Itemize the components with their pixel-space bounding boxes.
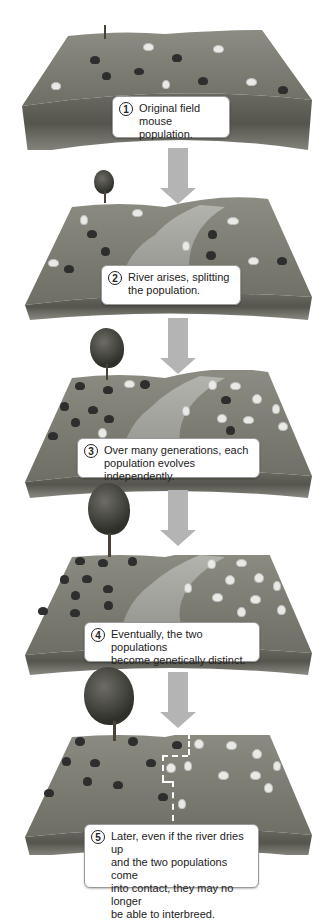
tree-trunk — [113, 721, 116, 741]
light-mouse-icon — [243, 416, 254, 424]
tree-icon — [84, 667, 134, 725]
dark-mouse-icon — [226, 426, 235, 435]
dark-mouse-icon — [70, 609, 80, 617]
step-1-panel: 1 Original field mouse population. — [0, 0, 333, 150]
light-mouse-icon — [230, 382, 241, 390]
interbreeding-barrier-line — [162, 781, 172, 783]
step-number-badge: 2 — [108, 271, 122, 285]
light-mouse-icon — [80, 215, 88, 225]
dark-mouse-icon — [48, 432, 58, 440]
light-mouse-icon — [273, 581, 281, 591]
light-mouse-icon — [237, 607, 246, 617]
dark-mouse-icon — [221, 396, 231, 404]
dark-mouse-icon — [75, 557, 85, 565]
dark-mouse-icon — [208, 230, 217, 239]
light-mouse-icon — [217, 414, 227, 423]
label-line: Over many generations, each — [104, 444, 252, 457]
interbreeding-barrier-line — [162, 755, 188, 757]
label-line: become genetically distinct. — [111, 654, 252, 667]
light-mouse-icon — [226, 741, 237, 750]
dark-mouse-icon — [44, 789, 54, 797]
step-5-label: 5 Later, even if the river dries up and … — [84, 824, 259, 888]
light-mouse-icon — [254, 573, 264, 583]
light-mouse-icon — [250, 771, 261, 780]
light-mouse-icon — [182, 406, 190, 416]
light-mouse-icon — [250, 595, 261, 604]
dark-mouse-icon — [104, 415, 114, 423]
tree-icon — [88, 483, 130, 535]
label-line: and the two populations come — [111, 856, 251, 882]
label-line: Original field — [139, 102, 222, 115]
dark-mouse-icon — [102, 72, 111, 80]
dark-mouse-icon — [103, 386, 113, 394]
light-mouse-icon — [252, 749, 262, 759]
dark-mouse-icon — [113, 781, 123, 789]
light-mouse-icon — [277, 605, 286, 615]
step-5-panel: 5 Later, even if the river dries up and … — [0, 735, 333, 893]
light-mouse-icon — [278, 422, 288, 431]
light-mouse-icon — [51, 82, 61, 90]
light-mouse-icon — [182, 241, 190, 251]
label-line: Later, even if the river dries up — [111, 830, 251, 856]
light-mouse-icon — [252, 394, 262, 404]
tree-trunk — [106, 364, 108, 380]
light-mouse-icon — [264, 783, 273, 793]
tree-trunk — [108, 533, 111, 557]
light-mouse-icon — [124, 380, 135, 388]
label-line: Eventually, the two populations — [111, 628, 252, 654]
light-mouse-icon — [272, 404, 280, 414]
step-3-panel: 3 Over many generations, each population… — [0, 370, 333, 498]
dark-mouse-icon — [82, 575, 92, 583]
light-mouse-icon — [273, 761, 281, 771]
label-line: the population. — [128, 284, 233, 297]
dark-mouse-icon — [75, 737, 85, 746]
dark-mouse-icon — [172, 54, 182, 62]
label-line: mouse population. — [139, 115, 222, 141]
dark-mouse-icon — [60, 575, 69, 584]
dark-mouse-icon — [104, 601, 113, 610]
label-line: population evolves independently. — [104, 457, 252, 483]
light-mouse-icon — [132, 209, 143, 217]
light-mouse-icon — [225, 575, 235, 585]
tree-icon — [90, 328, 124, 368]
dark-mouse-icon — [62, 757, 71, 766]
label-line: into contact, they may no longer — [111, 882, 251, 908]
dark-mouse-icon — [71, 591, 80, 600]
label-line: be able to interbreed. — [111, 908, 251, 921]
dark-mouse-icon — [60, 402, 69, 411]
light-mouse-icon — [213, 45, 224, 53]
light-mouse-icon — [246, 78, 257, 86]
down-arrow-icon — [160, 490, 196, 546]
light-mouse-icon — [218, 771, 229, 780]
dark-mouse-icon — [98, 559, 108, 567]
dark-mouse-icon — [38, 607, 48, 615]
step-number-badge: 1 — [119, 102, 133, 116]
interbreeding-barrier-line — [172, 781, 174, 821]
light-mouse-icon — [48, 259, 59, 267]
dark-mouse-icon — [71, 418, 80, 427]
light-mouse-icon — [194, 739, 204, 749]
light-mouse-icon — [98, 428, 107, 438]
light-mouse-icon — [184, 761, 192, 771]
dark-mouse-icon — [206, 251, 216, 260]
light-mouse-icon — [143, 43, 154, 51]
dark-mouse-icon — [64, 265, 74, 273]
dark-mouse-icon — [83, 777, 92, 786]
light-mouse-icon — [166, 763, 176, 773]
dark-mouse-icon — [158, 793, 168, 801]
dark-mouse-icon — [90, 56, 100, 64]
light-mouse-icon — [212, 593, 223, 602]
down-arrow-icon — [160, 318, 196, 374]
dark-mouse-icon — [134, 68, 144, 75]
dark-mouse-icon — [198, 77, 208, 85]
dark-mouse-icon — [146, 759, 156, 767]
light-mouse-icon — [178, 799, 186, 809]
step-2-label: 2 River arises, splitting the population… — [101, 265, 241, 305]
light-mouse-icon — [207, 559, 216, 569]
light-mouse-icon — [236, 559, 247, 567]
dark-mouse-icon — [128, 737, 138, 746]
dark-mouse-icon — [101, 247, 110, 256]
step-number-badge: 5 — [91, 830, 105, 844]
dark-mouse-icon — [277, 257, 287, 265]
interbreeding-barrier-line — [162, 755, 164, 781]
